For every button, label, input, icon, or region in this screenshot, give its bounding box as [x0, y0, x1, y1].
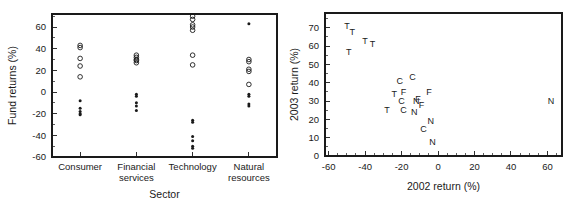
x-tick-label-3: Natural	[234, 161, 265, 172]
y-tick-label-50: 50	[308, 59, 319, 70]
data-point-filled	[135, 101, 138, 104]
data-point-letter-F: F	[426, 87, 432, 97]
x-tick-label-40: 40	[506, 161, 517, 172]
data-point-filled	[191, 147, 194, 150]
data-point-filled	[135, 109, 138, 112]
data-point-filled	[191, 139, 194, 142]
y-tick-label-20: 20	[35, 65, 46, 76]
y-tick-label-10: 10	[308, 132, 319, 143]
data-point-letter-C: C	[420, 124, 427, 134]
x-axis-title: 2002 return (%)	[407, 180, 480, 192]
y-tick-label-70: 70	[308, 22, 319, 33]
data-point-open	[78, 75, 83, 80]
x-tick-label-20: 20	[469, 161, 480, 172]
x-tick-label-1: Financial	[117, 161, 155, 172]
data-point-letter-N: N	[427, 116, 434, 126]
y-axis-title: Fund returns (%)	[6, 46, 18, 125]
x-tick-label--40: -40	[358, 161, 372, 172]
y-tick-label--20: -20	[32, 108, 46, 119]
data-point-open	[190, 28, 195, 33]
x-tick-label-0: Consumer	[58, 161, 102, 172]
data-point-letter-T: T	[346, 47, 352, 57]
data-point-letter-T: T	[370, 39, 376, 49]
x-tick-label--60: -60	[322, 161, 336, 172]
data-point-open	[190, 17, 195, 22]
return-2003-vs-2002-plot: -60-40-2002040600102030405060702002 retu…	[285, 0, 570, 214]
fund-returns-by-sector-plot: -60-40-200204060ConsumerFinancialservice…	[0, 0, 285, 214]
data-point-letter-T: T	[392, 89, 398, 99]
data-point-open	[78, 56, 83, 61]
y-tick-label-0: 0	[41, 86, 46, 97]
plot-frame	[52, 14, 277, 157]
x-tick-label-0: 0	[435, 161, 440, 172]
data-point-letter-T: T	[384, 105, 390, 115]
data-point-letter-N: N	[429, 137, 436, 147]
data-point-letter-C: C	[409, 72, 416, 82]
x-tick-label-1: services	[119, 172, 154, 183]
x-axis-title: Sector	[149, 188, 180, 200]
chart-panel-fund-returns-by-sector: -60-40-200204060ConsumerFinancialservice…	[0, 0, 285, 214]
data-point-open	[190, 63, 195, 68]
data-point-filled	[135, 105, 138, 108]
data-point-letter-F: F	[419, 100, 425, 110]
data-point-letter-C: C	[400, 105, 407, 115]
plot-frame	[325, 13, 562, 156]
data-point-filled	[247, 95, 250, 98]
two-panel-figure: -60-40-200204060ConsumerFinancialservice…	[0, 0, 570, 214]
y-axis-title: 2003 return (%)	[288, 48, 300, 121]
x-tick-label-60: 60	[542, 161, 553, 172]
chart-panel-return-2003-vs-2002: -60-40-2002040600102030405060702002 retu…	[285, 0, 570, 214]
y-tick-label-40: 40	[308, 77, 319, 88]
data-point-letter-T: T	[350, 27, 356, 37]
y-tick-label--60: -60	[32, 151, 46, 162]
data-point-filled	[79, 113, 82, 116]
data-point-letter-T: T	[362, 36, 368, 46]
y-tick-label-30: 30	[308, 95, 319, 106]
data-point-filled	[79, 99, 82, 102]
data-point-letter-N: N	[411, 107, 418, 117]
y-tick-label-40: 40	[35, 43, 46, 54]
x-tick-label-2: Technology	[169, 161, 217, 172]
data-point-open	[247, 82, 252, 87]
y-tick-label-60: 60	[35, 21, 46, 32]
data-point-open	[78, 64, 83, 69]
x-tick-label--20: -20	[395, 161, 409, 172]
x-tick-label-3: resources	[228, 172, 270, 183]
data-point-filled	[247, 105, 250, 108]
y-tick-label-20: 20	[308, 114, 319, 125]
data-point-filled	[247, 22, 250, 25]
data-point-filled	[191, 121, 194, 124]
data-point-filled	[135, 95, 138, 98]
data-point-filled	[191, 135, 194, 138]
y-tick-label-0: 0	[314, 150, 319, 161]
y-tick-label--40: -40	[32, 130, 46, 141]
data-point-filled	[79, 107, 82, 110]
y-tick-label-60: 60	[308, 40, 319, 51]
data-point-letter-N: N	[548, 96, 555, 106]
data-point-open	[190, 53, 195, 58]
data-point-letter-C: C	[396, 76, 403, 86]
